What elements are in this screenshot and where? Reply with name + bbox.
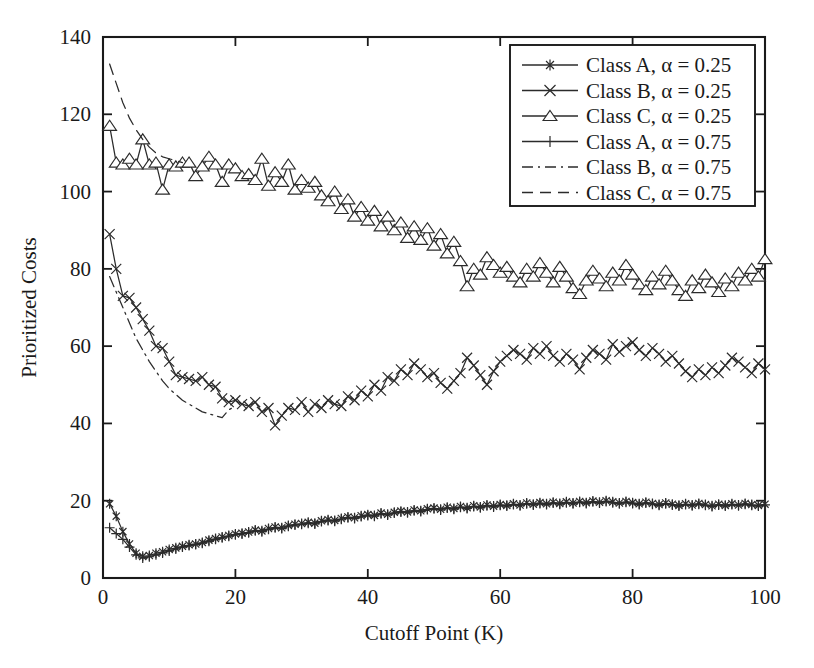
x-axis-title: Cutoff Point (K)	[365, 621, 503, 645]
x-tick-label: 20	[225, 585, 246, 609]
legend-item-label: Class B, α = 0.75	[586, 155, 731, 179]
chart-figure: 020406080100020406080100120140 Class A, …	[0, 0, 814, 668]
legend-item-label: Class C, α = 0.75	[586, 181, 731, 205]
chart-legend: Class A, α = 0.25Class B, α = 0.25Class …	[510, 45, 755, 206]
legend-item-label: Class B, α = 0.25	[586, 79, 731, 103]
y-tick-label: 0	[81, 566, 92, 590]
legend-item-label: Class C, α = 0.25	[586, 104, 731, 128]
y-tick-label: 120	[60, 102, 92, 126]
x-tick-label: 60	[490, 585, 511, 609]
y-tick-label: 80	[70, 257, 91, 281]
legend-item-label: Class A, α = 0.75	[586, 130, 731, 154]
legend-item-label: Class A, α = 0.25	[586, 53, 731, 77]
y-axis-title: Prioritized Costs	[17, 237, 41, 378]
x-tick-label: 0	[98, 585, 109, 609]
x-tick-label: 80	[622, 585, 643, 609]
y-tick-label: 100	[60, 180, 92, 204]
y-tick-label: 60	[70, 334, 91, 358]
y-tick-label: 20	[70, 489, 91, 513]
x-tick-label: 40	[357, 585, 378, 609]
prioritized-costs-line-chart: 020406080100020406080100120140 Class A, …	[0, 0, 814, 668]
y-tick-label: 40	[70, 411, 91, 435]
y-tick-label: 140	[60, 25, 92, 49]
x-tick-label: 100	[749, 585, 781, 609]
